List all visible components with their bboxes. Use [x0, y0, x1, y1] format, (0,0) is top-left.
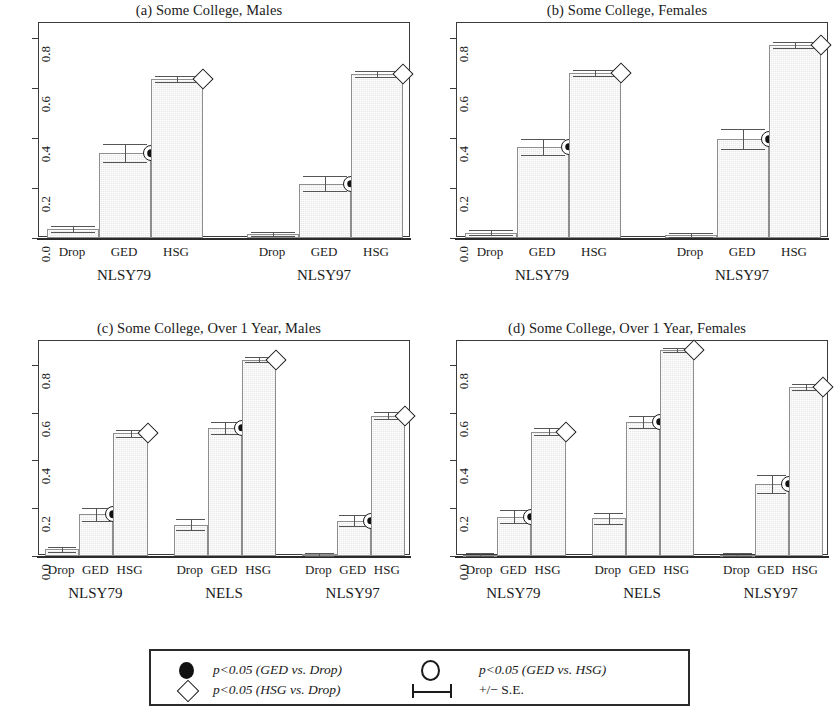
- bar: [569, 73, 621, 239]
- x-axis-category-label: HSG: [245, 562, 271, 578]
- x-axis-category-label: GED: [339, 562, 366, 578]
- error-bar-cap-lower: [757, 493, 786, 494]
- x-axis-group-label: NLSY79: [515, 267, 569, 284]
- error-bar-cap-upper: [176, 519, 205, 520]
- x-axis-category-label: GED: [311, 244, 338, 260]
- chart-panel-b: (b) Some College, Females 0.00.20.40.60.…: [418, 0, 836, 318]
- panel-b-plot-area: 0.00.20.40.60.8: [457, 23, 827, 236]
- x-axis-category-label: Drop: [59, 244, 86, 260]
- x-axis-group-label: NLSY97: [744, 585, 798, 602]
- error-bar-cap-lower: [773, 48, 817, 49]
- panel-c-plot-area: 0.00.20.40.60.8: [39, 341, 409, 554]
- error-bar-cap-lower: [51, 232, 95, 233]
- error-bar-cap-lower: [103, 162, 147, 163]
- bar: [717, 139, 769, 238]
- panel-c-title: (c) Some College, Over 1 Year, Males: [0, 320, 418, 337]
- x-axis-category-label: Drop: [723, 562, 750, 578]
- bar: [769, 45, 821, 238]
- panel-a-title: (a) Some College, Males: [0, 2, 418, 19]
- error-bar-cap-upper: [757, 475, 786, 476]
- zero-baseline: [37, 238, 411, 240]
- error-bar-cap-lower: [573, 76, 617, 77]
- error-bar-cap-lower: [155, 82, 199, 83]
- bar: [531, 432, 565, 556]
- x-axis-category-label: Drop: [48, 562, 75, 578]
- error-bar-cap-upper: [594, 513, 623, 514]
- x-axis-category-label: Drop: [305, 562, 332, 578]
- error-bar-cap-upper: [251, 232, 295, 233]
- error-bar-cap-lower: [469, 235, 513, 236]
- x-axis-category-label: GED: [111, 244, 138, 260]
- chart-panel-d: (d) Some College, Over 1 Year, Females 0…: [418, 318, 836, 636]
- x-axis-category-label: HSG: [663, 562, 689, 578]
- x-axis-category-label: GED: [729, 244, 756, 260]
- error-bar-cap-upper: [669, 233, 713, 234]
- error-bar-cap-lower: [48, 552, 77, 553]
- error-bar-cap-lower: [629, 428, 658, 429]
- bar: [242, 360, 276, 556]
- error-bar-line: [325, 176, 326, 192]
- legend-error-bar-icon: [412, 684, 452, 698]
- x-axis-group-label: NELS: [205, 585, 243, 602]
- error-bar-cap-lower: [723, 556, 752, 557]
- legend-label-ged-vs-drop: p<0.05 (GED vs. Drop): [213, 662, 342, 678]
- x-axis-category-label: Drop: [259, 244, 286, 260]
- bar: [626, 422, 660, 556]
- error-bar-line: [772, 475, 773, 493]
- x-axis-category-label: GED: [529, 244, 556, 260]
- panel-c-plot-box: 0.00.20.40.60.8: [38, 340, 410, 555]
- x-axis-category-label: HSG: [163, 244, 189, 260]
- error-bar-cap-lower: [355, 77, 399, 78]
- bar: [113, 433, 147, 556]
- x-axis-category-label: GED: [629, 562, 656, 578]
- error-bar-cap-lower: [339, 526, 368, 527]
- bar: [517, 147, 569, 238]
- x-axis-category-label: Drop: [466, 562, 493, 578]
- bar: [351, 74, 403, 238]
- legend-open-diamond-icon: [177, 680, 200, 703]
- error-bar-cap-upper: [305, 553, 334, 554]
- error-bar-cap-upper: [155, 76, 199, 77]
- error-bar-cap-upper: [51, 226, 95, 227]
- panel-a-plot-area: 0.00.20.40.60.8: [39, 23, 409, 236]
- x-axis-group-label: NLSY79: [68, 585, 122, 602]
- error-bar-cap-upper: [721, 129, 765, 130]
- error-bar-line: [543, 139, 544, 155]
- x-axis-group-label: NLSY97: [326, 585, 380, 602]
- error-bar-line: [131, 430, 132, 437]
- panel-b-title: (b) Some College, Females: [418, 2, 836, 19]
- x-axis-category-label: HSG: [363, 244, 389, 260]
- legend-label-ged-vs-hsg: p<0.05 (GED vs. HSG): [479, 662, 606, 678]
- error-bar-cap-upper: [521, 139, 565, 140]
- error-bar-cap-lower: [721, 149, 765, 150]
- chart-panel-c: (c) Some College, Over 1 Year, Males 0.0…: [0, 318, 418, 636]
- error-bar-cap-lower: [466, 556, 495, 557]
- error-bar-cap-lower: [521, 155, 565, 156]
- legend-label-standard-error: +/− S.E.: [479, 682, 524, 698]
- error-bar-cap-upper: [573, 70, 617, 71]
- error-bar-cap-upper: [773, 42, 817, 43]
- bar: [208, 428, 242, 556]
- x-axis-category-label: Drop: [176, 562, 203, 578]
- panel-b-plot-box: 0.00.20.40.60.8: [456, 22, 828, 237]
- chart-panel-a: (a) Some College, Males 0.00.20.40.60.8 …: [0, 0, 418, 318]
- error-bar-cap-upper: [103, 144, 147, 145]
- x-axis-category-label: Drop: [677, 244, 704, 260]
- x-axis-group-label: NLSY97: [297, 267, 351, 284]
- error-bar-cap-lower: [594, 524, 623, 525]
- panel-a-plot-box: 0.00.20.40.60.8: [38, 22, 410, 237]
- x-axis-group-label: NLSY97: [715, 267, 769, 284]
- x-axis-group-label: NLSY79: [486, 585, 540, 602]
- legend-label-hsg-vs-drop: p<0.05 (HSG vs. Drop): [213, 682, 340, 698]
- error-bar-line: [125, 144, 126, 162]
- x-axis-category-label: Drop: [477, 244, 504, 260]
- x-axis-category-label: GED: [757, 562, 784, 578]
- x-axis-group-label: NLSY79: [97, 267, 151, 284]
- figure-canvas: (a) Some College, Males 0.00.20.40.60.8 …: [0, 0, 837, 717]
- error-bar-line: [96, 508, 97, 521]
- bar: [99, 153, 151, 238]
- panel-d-title: (d) Some College, Over 1 Year, Females: [418, 320, 836, 337]
- bar: [755, 484, 789, 556]
- x-axis-category-label: GED: [82, 562, 109, 578]
- error-bar-cap-lower: [500, 523, 529, 524]
